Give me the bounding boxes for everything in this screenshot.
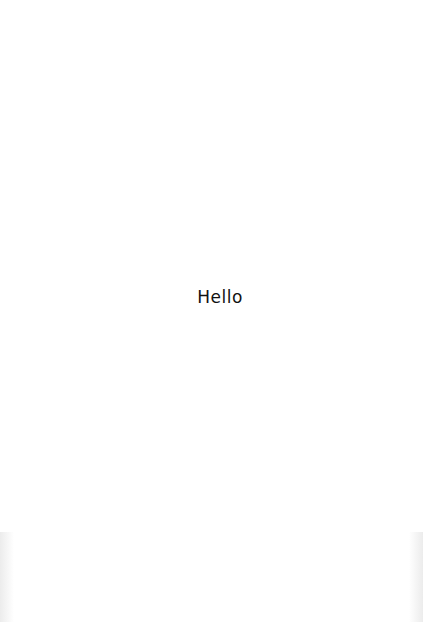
left-edge-shadow bbox=[0, 532, 14, 622]
greeting-text: Hello bbox=[0, 287, 423, 307]
right-edge-shadow bbox=[409, 532, 423, 622]
blank-page: Hello bbox=[0, 0, 423, 622]
